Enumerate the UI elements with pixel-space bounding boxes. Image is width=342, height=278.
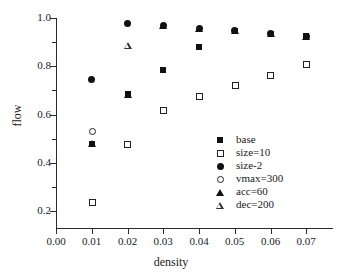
- x-tick-label: 0.06: [251, 236, 291, 247]
- data-point-size-10: [124, 141, 131, 148]
- legend-marker-open-square-icon: [217, 150, 224, 157]
- data-point-size-10: [303, 61, 310, 68]
- data-point-size-10: [196, 93, 203, 100]
- legend-marker-filled-triangle-icon: [216, 189, 224, 196]
- x-tick-label: 0.07: [286, 236, 326, 247]
- legend-item-acc-60: acc=60: [214, 185, 283, 198]
- data-point-size-10: [89, 199, 96, 206]
- y-tick-minor: [52, 187, 56, 188]
- y-tick-label: 0.6: [37, 109, 51, 120]
- x-tick-major: [92, 229, 93, 234]
- y-tick-minor: [52, 90, 56, 91]
- x-tick-major: [163, 229, 164, 234]
- legend-marker-filled-circle-icon: [217, 163, 224, 170]
- legend: basesize=10size-2vmax=300acc=60dec=200: [214, 133, 283, 211]
- y-tick-label: 0.8: [37, 60, 51, 71]
- legend-marker-filled-square-icon: [217, 137, 223, 143]
- x-tick-label: 0.02: [108, 236, 148, 247]
- y-axis-line: [56, 18, 57, 229]
- data-point-size-2: [160, 22, 167, 29]
- data-point-vmax-300: [89, 128, 96, 135]
- y-tick-label: 0.2: [37, 205, 51, 216]
- y-tick-minor: [52, 139, 56, 140]
- legend-label: vmax=300: [214, 172, 283, 185]
- x-tick-label: 0.05: [215, 236, 255, 247]
- data-point-size-2: [88, 76, 95, 83]
- y-axis-title: flow: [10, 91, 25, 141]
- data-point-size-2: [196, 25, 203, 32]
- x-tick-major: [306, 229, 307, 234]
- data-point-size-2: [303, 33, 310, 40]
- legend-item-vmax-300: vmax=300: [214, 172, 283, 185]
- legend-marker-open-circle-icon: [217, 176, 224, 183]
- scatter-plot-figure: 0.20.40.60.81.0 0.000.010.020.030.040.05…: [0, 0, 342, 278]
- x-tick-label: 0.00: [36, 236, 76, 247]
- data-point-size-2: [124, 20, 131, 27]
- data-point-dec-200: [124, 42, 132, 49]
- x-tick-major: [56, 229, 57, 234]
- data-point-size-10: [160, 107, 167, 114]
- x-tick-label: 0.01: [72, 236, 112, 247]
- y-tick-minor: [52, 42, 56, 43]
- data-point-base: [160, 67, 166, 73]
- x-tick-label: 0.04: [179, 236, 219, 247]
- x-tick-label: 0.03: [143, 236, 183, 247]
- x-tick-major: [235, 229, 236, 234]
- legend-marker-open-triangle-icon: [216, 202, 224, 209]
- x-tick-major: [199, 229, 200, 234]
- x-axis-line: [56, 228, 333, 229]
- y-tick-label: 0.4: [37, 157, 51, 168]
- y-tick-label: 1.0: [37, 12, 51, 23]
- data-point-base: [196, 44, 202, 50]
- legend-item-base: base: [214, 133, 283, 146]
- data-point-size-10: [232, 82, 239, 89]
- data-point-acc-60: [124, 91, 132, 98]
- x-axis-title: density: [0, 255, 342, 270]
- data-point-size-10: [267, 72, 274, 79]
- legend-item-size-2: size-2: [214, 159, 283, 172]
- legend-item-size-10: size=10: [214, 146, 283, 159]
- data-point-acc-60: [88, 140, 96, 147]
- x-tick-major: [271, 229, 272, 234]
- legend-item-dec-200: dec=200: [214, 198, 283, 211]
- x-tick-major: [128, 229, 129, 234]
